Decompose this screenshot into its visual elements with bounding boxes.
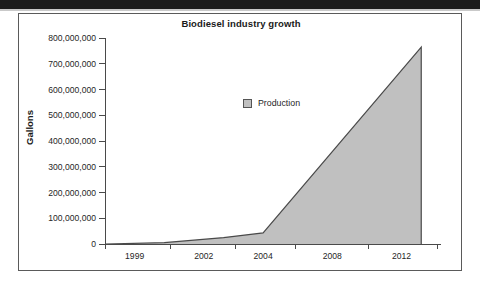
y-axis-tick: 600,000,000: [21, 84, 105, 96]
y-axis-tick: 200,000,000: [21, 187, 105, 199]
x-axis-tick-mark: [368, 244, 369, 249]
x-axis-tick-mark: [295, 244, 296, 249]
x-axis-tick-mark: [235, 244, 236, 249]
production-area-series: [105, 38, 441, 244]
y-axis-tick: 100,000,000: [21, 212, 105, 224]
y-axis-tick: 800,000,000: [21, 32, 105, 44]
scan-top-band: [0, 0, 480, 9]
y-axis-tick-label: 200,000,000: [48, 187, 96, 199]
y-axis-tick-label: 800,000,000: [48, 32, 96, 44]
y-axis-tick-label: 0: [91, 238, 96, 250]
x-axis-tick-mark: [105, 244, 106, 249]
x-axis-tick-label: 2002: [174, 251, 234, 261]
y-axis-title: Gallons: [24, 98, 35, 158]
production-area-fill: [105, 47, 421, 244]
legend-swatch-production: [243, 99, 252, 108]
chart-figure-frame: Biodiesel industry growth Gallons 800,00…: [18, 13, 462, 271]
y-axis-tick: 0: [21, 238, 105, 250]
y-axis-tick-label: 100,000,000: [48, 212, 96, 224]
y-axis-tick: 700,000,000: [21, 58, 105, 70]
y-axis-tick: 500,000,000: [21, 109, 105, 121]
x-axis-tick-mark: [170, 244, 171, 249]
x-axis-tick-label: 2008: [302, 251, 362, 261]
plot-area: 800,000,000700,000,000600,000,000500,000…: [105, 38, 441, 244]
x-axis-tick-label: 2004: [233, 251, 293, 261]
chart-legend: Production: [243, 98, 300, 108]
x-axis-tick-label: 2012: [371, 251, 431, 261]
y-axis-tick-label: 600,000,000: [48, 84, 96, 96]
page-canvas: Biodiesel industry growth Gallons 800,00…: [0, 0, 480, 282]
y-axis-tick-label: 500,000,000: [48, 109, 96, 121]
y-axis-tick: 400,000,000: [21, 135, 105, 147]
x-axis-tick-mark: [437, 244, 438, 249]
scan-top-band-shadow: [0, 9, 480, 11]
x-axis-tick-label: 1999: [105, 251, 165, 261]
y-axis-tick: 300,000,000: [21, 161, 105, 173]
y-axis-tick-label: 300,000,000: [48, 161, 96, 173]
y-axis-tick-label: 700,000,000: [48, 58, 96, 70]
legend-label-production: Production: [258, 98, 300, 108]
y-axis-tick-label: 400,000,000: [48, 135, 96, 147]
x-axis-line: [105, 244, 441, 245]
chart-title: Biodiesel industry growth: [19, 18, 463, 29]
